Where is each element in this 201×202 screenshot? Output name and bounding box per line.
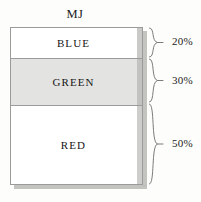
bar-segment-label-green: GREEN: [52, 76, 94, 88]
bar-segment-label-red: RED: [61, 139, 86, 151]
brace-green: [148, 58, 170, 103]
segment-edge-shading-green: [137, 59, 142, 105]
percent-label-red: 50%: [172, 137, 193, 149]
bar-drop-shadow-bottom: [14, 185, 147, 189]
brace-blue: [148, 27, 170, 58]
bar-segment-label-blue: BLUE: [57, 37, 90, 49]
segment-edge-shading-red: [137, 106, 142, 184]
bar-drop-shadow-right: [143, 31, 147, 186]
bar-segment-red: RED: [11, 106, 142, 184]
chart-title: MJ: [0, 7, 150, 22]
bar-segment-blue: BLUE: [11, 28, 142, 59]
bar-segment-green: GREEN: [11, 59, 142, 106]
segment-edge-shading-blue: [137, 28, 142, 58]
brace-red: [148, 103, 170, 185]
chart-canvas: MJ BLUE GREEN RED 20% 30% 50%: [0, 0, 201, 202]
stacked-bar: BLUE GREEN RED: [10, 27, 143, 185]
percent-label-blue: 20%: [172, 35, 193, 47]
percent-label-green: 30%: [172, 74, 193, 86]
